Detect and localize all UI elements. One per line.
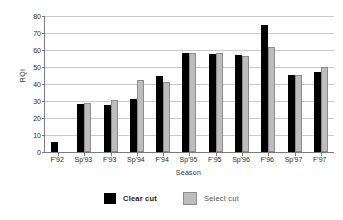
bar-select-cut xyxy=(163,82,170,152)
bar-select-cut xyxy=(84,103,91,152)
bar-clear-cut xyxy=(288,75,295,152)
bar-clear-cut xyxy=(51,142,58,152)
legend-entry: Clear cut xyxy=(104,193,157,204)
bar-group xyxy=(45,16,71,152)
bars-layer xyxy=(45,16,334,152)
y-axis-tick-label: 50 xyxy=(33,64,41,71)
bar-select-cut xyxy=(111,100,118,152)
legend-entry: Select cut xyxy=(183,192,239,205)
x-axis-tick-label: F'93 xyxy=(97,156,123,163)
bar-group xyxy=(203,16,229,152)
bar-select-cut xyxy=(189,53,196,152)
bar-clear-cut xyxy=(156,76,163,152)
bar-clear-cut xyxy=(209,54,216,152)
bar-select-cut xyxy=(268,47,275,152)
y-axis-tick-label: 60 xyxy=(33,47,41,54)
black-square-icon xyxy=(104,193,116,204)
x-axis-tick-labels: F'92Sp'93F'93Sp'94F'94Sp'95F'95Sp'96F'96… xyxy=(44,156,333,163)
plot-area: 01020304050607080 xyxy=(44,16,334,153)
x-axis-tick-label: Sp'95 xyxy=(175,156,201,163)
y-axis-title: RQI xyxy=(19,56,26,96)
bar-select-cut xyxy=(137,80,144,152)
y-axis-tick-label: 0 xyxy=(37,149,41,156)
bar-clear-cut xyxy=(182,53,189,152)
bar-group xyxy=(176,16,202,152)
y-axis-tick-label: 10 xyxy=(33,132,41,139)
legend-label: Select cut xyxy=(204,194,239,203)
bar-group xyxy=(308,16,334,152)
x-axis-tick-label: F'96 xyxy=(254,156,280,163)
bar-select-cut xyxy=(242,56,249,152)
y-axis-tick-label: 70 xyxy=(33,30,41,37)
bar-clear-cut xyxy=(77,104,84,152)
bar-clear-cut xyxy=(104,105,111,152)
y-axis-tick-label: 30 xyxy=(33,98,41,105)
bar-select-cut xyxy=(295,75,302,152)
bar-clear-cut xyxy=(130,99,137,152)
bar-group xyxy=(281,16,307,152)
x-axis-tick-label: F'97 xyxy=(307,156,333,163)
bar-group xyxy=(229,16,255,152)
y-axis-tick-label: 80 xyxy=(33,13,41,20)
x-axis-tick-label: Sp'96 xyxy=(228,156,254,163)
x-axis-tick-label: Sp'97 xyxy=(280,156,306,163)
legend-label: Clear cut xyxy=(123,194,157,203)
bar-group xyxy=(150,16,176,152)
bar-clear-cut xyxy=(235,55,242,152)
bar-clear-cut xyxy=(314,72,321,152)
x-axis-tick-label: F'92 xyxy=(44,156,70,163)
bar-group xyxy=(124,16,150,152)
y-axis-tick-label: 20 xyxy=(33,115,41,122)
bar-select-cut xyxy=(216,53,223,152)
chart-legend: Clear cutSelect cut xyxy=(0,192,343,205)
bar-group xyxy=(98,16,124,152)
bar-select-cut xyxy=(321,67,328,152)
bar-clear-cut xyxy=(261,25,268,153)
y-axis-tick-mark xyxy=(42,152,45,153)
bar-group xyxy=(71,16,97,152)
x-axis-title: Season xyxy=(44,169,333,176)
bar-group xyxy=(255,16,281,152)
x-axis-tick-label: F'94 xyxy=(149,156,175,163)
gray-square-icon xyxy=(183,192,197,205)
bar-chart: RQI 01020304050607080 F'92Sp'93F'93Sp'94… xyxy=(0,0,343,220)
y-axis-tick-label: 40 xyxy=(33,81,41,88)
x-axis-tick-label: Sp'94 xyxy=(123,156,149,163)
x-axis-tick-label: Sp'93 xyxy=(70,156,96,163)
x-axis-tick-label: F'95 xyxy=(202,156,228,163)
